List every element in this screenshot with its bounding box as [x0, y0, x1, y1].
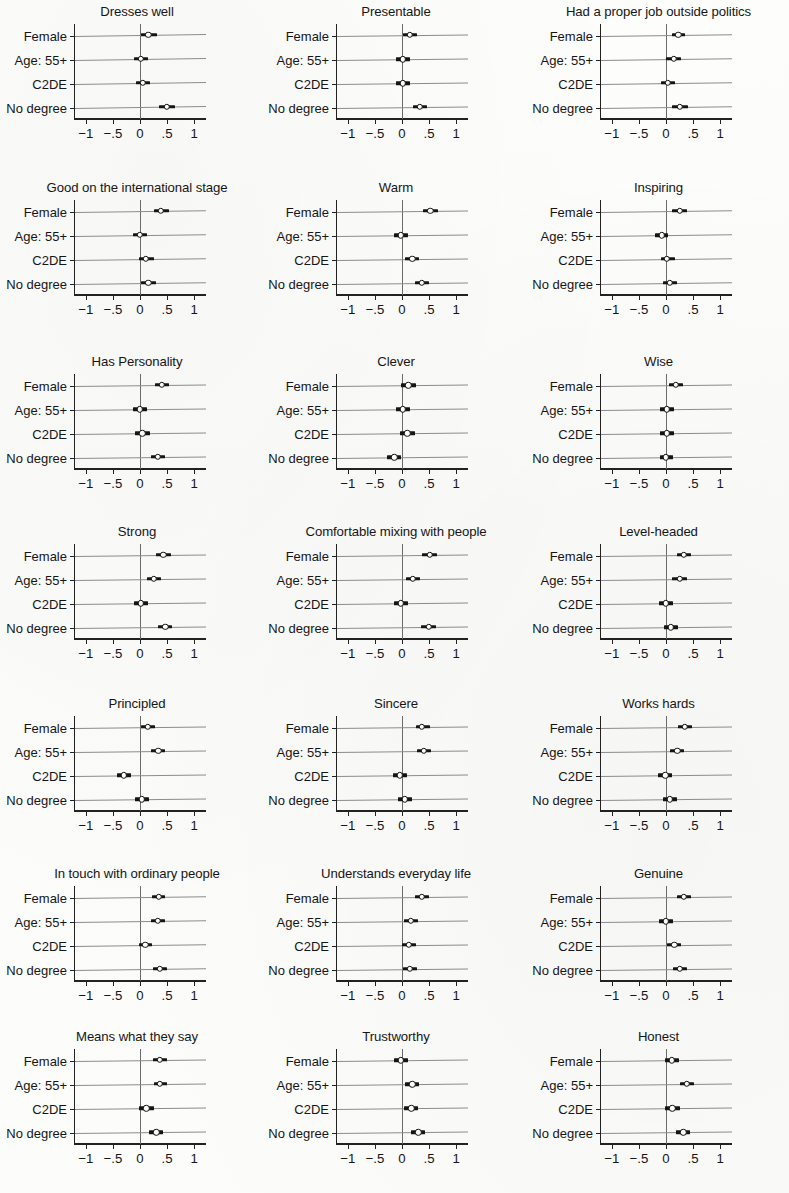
point-estimate-marker — [406, 966, 412, 972]
panel-title: Clever — [265, 354, 527, 370]
zero-reference-line — [402, 374, 403, 470]
x-axis-tick-label: −.5 — [104, 302, 123, 317]
x-axis-tick — [720, 1144, 721, 1149]
x-axis-tick-label: 1 — [716, 818, 723, 833]
zero-reference-line — [402, 24, 403, 120]
y-axis-category-label: Female — [24, 892, 67, 906]
point-estimate-marker — [398, 1057, 404, 1063]
panel-title: Had a proper job outside politics — [526, 4, 789, 20]
y-axis-category-label: C2DE — [32, 940, 67, 954]
x-axis-tick-label: 1 — [452, 988, 459, 1003]
x-axis-tick-label: 0 — [662, 302, 669, 317]
point-estimate-marker — [669, 1105, 675, 1111]
point-estimate-marker — [153, 1129, 159, 1135]
x-axis-tick-label: .5 — [162, 988, 173, 1003]
y-axis-category-label: Age: 55+ — [277, 404, 329, 418]
x-axis-tick — [348, 1144, 349, 1149]
x-axis-tick — [194, 811, 195, 816]
x-axis-tick — [720, 639, 721, 644]
y-axis-category-label: Age: 55+ — [541, 574, 593, 588]
plot-area: −1−.50.51FemaleAge: 55+C2DENo degree — [336, 886, 468, 982]
panel-title: Honest — [526, 1029, 789, 1045]
x-axis-tick — [639, 295, 640, 300]
x-axis-tick-label: .5 — [424, 476, 435, 491]
x-axis-tick — [693, 811, 694, 816]
coefficient-panel: Level-headed−1−.50.51FemaleAge: 55+C2DEN… — [524, 524, 789, 696]
x-axis-tick-label: −1 — [78, 126, 93, 141]
y-axis-category-label: C2DE — [558, 428, 593, 442]
y-axis-category-label: No degree — [532, 794, 593, 808]
x-axis-tick-label: 0 — [398, 302, 405, 317]
y-axis-tick — [596, 84, 601, 85]
x-axis-tick — [456, 469, 457, 474]
y-axis-line — [600, 24, 601, 120]
coefficient-panel: Wise−1−.50.51FemaleAge: 55+C2DENo degree — [524, 354, 789, 524]
x-axis-tick-label: 0 — [662, 818, 669, 833]
y-axis-category-label: No degree — [268, 964, 329, 978]
panel-title: Dresses well — [6, 4, 268, 20]
y-axis-category-label: Age: 55+ — [541, 746, 593, 760]
point-estimate-marker — [410, 576, 416, 582]
zero-reference-line — [140, 1049, 141, 1145]
y-axis-category-label: No degree — [532, 452, 593, 466]
x-axis-tick-label: −.5 — [630, 302, 649, 317]
y-axis-tick — [332, 36, 337, 37]
y-axis-tick — [596, 236, 601, 237]
x-axis-tick-label: 0 — [136, 646, 143, 661]
x-axis-tick — [693, 1144, 694, 1149]
point-estimate-marker — [399, 56, 405, 62]
x-axis-tick — [612, 811, 613, 816]
y-axis-tick — [596, 800, 601, 801]
y-axis-category-label: Female — [24, 550, 67, 564]
point-estimate-marker — [681, 894, 687, 900]
panel-title: Understands everyday life — [265, 866, 527, 882]
y-axis-line — [74, 1049, 75, 1145]
x-axis-tick-label: 1 — [190, 1151, 197, 1166]
point-estimate-marker — [157, 966, 163, 972]
x-axis-tick-label: −.5 — [630, 988, 649, 1003]
point-estimate-marker — [138, 56, 144, 62]
y-axis-category-label: C2DE — [32, 78, 67, 92]
y-axis-category-label: C2DE — [32, 254, 67, 268]
point-estimate-marker — [663, 600, 669, 606]
y-axis-tick — [596, 628, 601, 629]
x-axis-tick — [140, 981, 141, 986]
y-axis-tick — [70, 970, 75, 971]
x-axis-tick — [167, 811, 168, 816]
x-axis-tick-label: 0 — [398, 476, 405, 491]
x-axis-tick-label: 1 — [190, 126, 197, 141]
x-axis-tick-label: −1 — [340, 818, 355, 833]
x-axis-tick — [402, 119, 403, 124]
point-estimate-marker — [137, 600, 143, 606]
x-axis-tick — [194, 295, 195, 300]
y-axis-line — [74, 200, 75, 296]
y-axis-category-label: Female — [286, 1055, 329, 1069]
y-axis-tick — [596, 728, 601, 729]
coefficient-panel: Strong−1−.50.51FemaleAge: 55+C2DENo degr… — [0, 524, 262, 696]
plot-area: −1−.50.51FemaleAge: 55+C2DENo degree — [600, 1049, 732, 1145]
zero-reference-line — [140, 374, 141, 470]
point-estimate-marker — [408, 1105, 414, 1111]
x-axis-tick-label: −.5 — [630, 1151, 649, 1166]
x-axis-tick-label: −1 — [604, 1151, 619, 1166]
x-axis-tick-label: −1 — [340, 302, 355, 317]
point-estimate-marker — [426, 552, 432, 558]
x-axis-tick-label: −.5 — [630, 818, 649, 833]
y-axis-tick — [332, 800, 337, 801]
x-axis-tick-label: 0 — [398, 818, 405, 833]
y-axis-tick — [332, 60, 337, 61]
x-axis-tick-label: .5 — [688, 646, 699, 661]
y-axis-category-label: Female — [286, 550, 329, 564]
coefficient-panel: Genuine−1−.50.51FemaleAge: 55+C2DENo deg… — [524, 866, 789, 1029]
x-axis-tick — [720, 295, 721, 300]
plot-area: −1−.50.51FemaleAge: 55+C2DENo degree — [74, 200, 206, 296]
panel-title: Principled — [6, 696, 268, 712]
y-axis-tick — [70, 84, 75, 85]
y-axis-tick — [332, 898, 337, 899]
plot-area: −1−.50.51FemaleAge: 55+C2DENo degree — [336, 24, 468, 120]
point-estimate-marker — [139, 430, 145, 436]
x-axis-tick — [693, 639, 694, 644]
zero-reference-line — [140, 544, 141, 640]
x-axis-tick — [113, 295, 114, 300]
x-axis-tick — [666, 811, 667, 816]
